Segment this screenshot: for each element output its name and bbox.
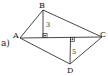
quadrilateral-diagram: B A C D 3 5 a) — [0, 0, 108, 76]
right-angle-dot-d — [72, 39, 73, 40]
vertex-label-d: D — [67, 66, 73, 75]
height-label-b: 3 — [46, 21, 50, 29]
vertex-label-a: A — [12, 31, 19, 40]
height-label-d: 5 — [72, 48, 76, 56]
side-bc — [43, 10, 102, 37]
side-da — [20, 38, 70, 64]
quadrilateral-outline — [20, 10, 102, 64]
side-ab — [20, 10, 43, 38]
vertex-label-c: C — [100, 30, 106, 39]
diagonal-ac — [20, 37, 102, 38]
right-angle-dot-b — [44, 35, 45, 36]
figure-label: a) — [1, 38, 10, 48]
vertex-label-b: B — [39, 1, 45, 10]
